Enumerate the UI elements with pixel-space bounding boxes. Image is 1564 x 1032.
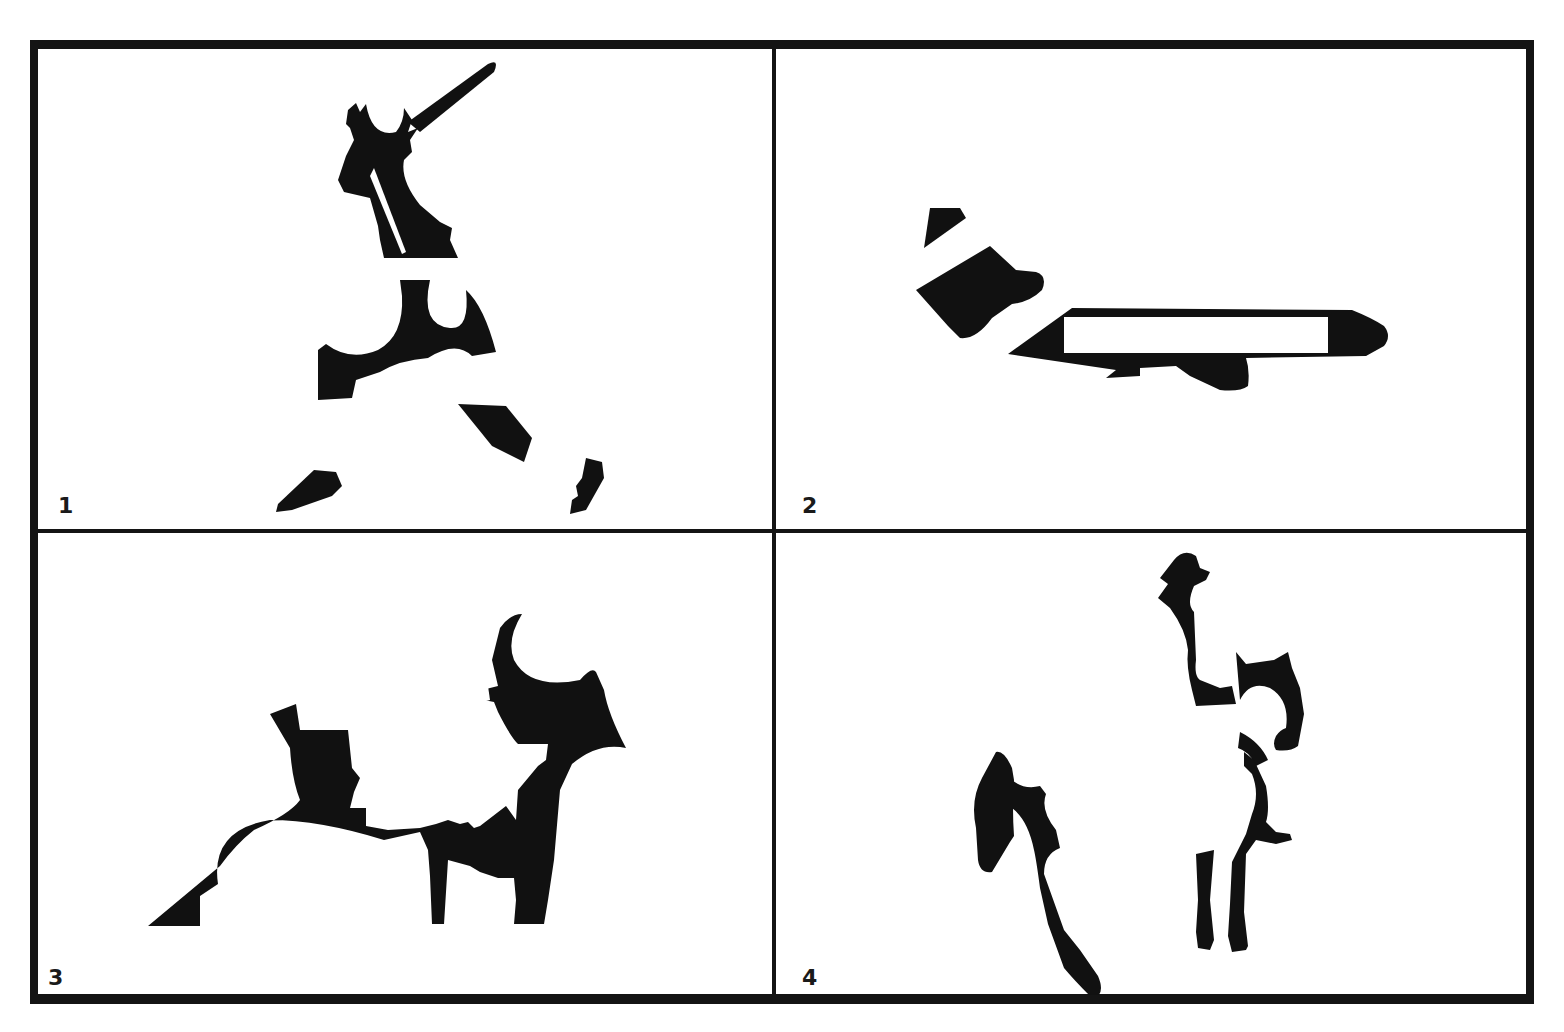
panel-1: 1 — [38, 49, 772, 529]
panel-4: 4 — [776, 533, 1526, 995]
cowboy-on-horse-silhouette-icon — [776, 533, 1526, 995]
panel-number: 3 — [48, 967, 63, 989]
panel-number: 2 — [802, 495, 817, 517]
panel-2: 2 — [776, 49, 1526, 529]
panel-3: 3 — [38, 533, 772, 995]
panel-number: 1 — [58, 495, 73, 517]
panel-number: 4 — [802, 967, 817, 989]
baseball-batter-silhouette-icon — [38, 49, 772, 529]
person-with-glasses-silhouette-icon — [38, 533, 772, 995]
airplane-silhouette-icon — [776, 49, 1526, 529]
